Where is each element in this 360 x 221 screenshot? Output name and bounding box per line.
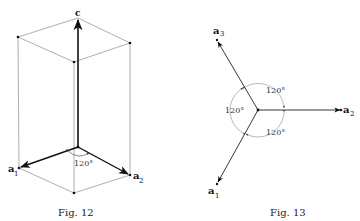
fig12-bottom-face <box>19 168 130 193</box>
fig12-vertical-edges <box>18 37 130 193</box>
figure-canvas: 120° c a 1 a 2 F ig. 12 120° <box>0 0 360 221</box>
svg-text:2: 2 <box>350 110 354 118</box>
svg-text:1: 1 <box>215 192 219 200</box>
fig13-a1-axis <box>218 110 258 182</box>
fig12-c-label: c <box>75 8 81 18</box>
fig13-axes-diagram: 120° 120° 120° a 3 a 2 a 1 F ig. 13 <box>208 25 354 218</box>
fig13-a3-axis <box>218 42 258 110</box>
fig13-caption: F ig. 13 <box>270 207 306 218</box>
svg-text:a: a <box>213 25 220 36</box>
fig13-origin <box>257 109 260 112</box>
fig13-angle-bottom: 120° <box>266 128 285 137</box>
svg-text:F: F <box>58 207 65 218</box>
fig12-a2-label: a 2 <box>133 170 143 185</box>
fig13-a3-label: a 3 <box>213 25 224 38</box>
fig13-angle-top: 120° <box>266 86 285 95</box>
svg-text:2: 2 <box>139 177 143 185</box>
fig13-angle-left: 120° <box>225 106 244 115</box>
fig13-a1-label: a 1 <box>208 185 219 200</box>
fig12-a1-axis <box>21 147 78 167</box>
fig12-unit-cell: 120° c a 1 a 2 F ig. 12 <box>8 8 143 218</box>
svg-text:F: F <box>270 207 277 218</box>
svg-text:1: 1 <box>14 170 18 178</box>
svg-text:ig. 12: ig. 12 <box>65 207 94 218</box>
svg-text:a: a <box>343 104 350 115</box>
fig12-a1-label: a 1 <box>8 163 18 178</box>
fig13-a2-label: a 2 <box>343 104 354 118</box>
svg-text:3: 3 <box>220 30 224 38</box>
svg-text:ig. 13: ig. 13 <box>277 207 306 218</box>
fig12-caption: F ig. 12 <box>58 207 94 218</box>
fig12-angle-label: 120° <box>74 159 93 168</box>
fig12-top-face <box>18 18 130 62</box>
svg-text:a: a <box>208 185 215 196</box>
